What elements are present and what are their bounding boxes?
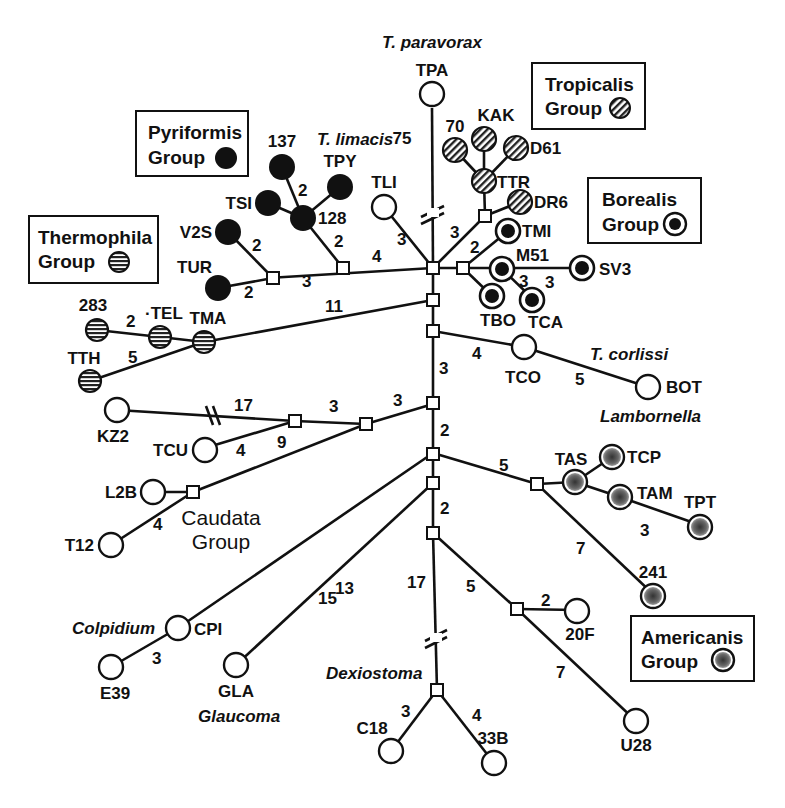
svg-text:BOT: BOT: [666, 378, 703, 397]
svg-text:3: 3: [397, 230, 406, 249]
diagonal-hatch-icon: [610, 98, 630, 118]
node-TAM: [608, 485, 632, 509]
svg-text:13: 13: [335, 579, 354, 598]
svg-text:3: 3: [152, 649, 161, 668]
svg-text:T. corlissi: T. corlissi: [590, 345, 669, 364]
node-33B: [482, 751, 506, 775]
node-TEL: [149, 326, 171, 348]
svg-text:TCO: TCO: [505, 368, 541, 387]
svg-text:Group: Group: [545, 98, 602, 119]
svg-text:4: 4: [236, 441, 246, 460]
node-241: [641, 584, 665, 608]
svg-text:·TEL: ·TEL: [145, 304, 183, 323]
svg-text:2: 2: [298, 181, 307, 200]
svg-text:2: 2: [252, 236, 261, 255]
svg-text:SV3: SV3: [599, 260, 631, 279]
svg-text:T. paravorax: T. paravorax: [382, 33, 483, 52]
ring-with-stippled-center-icon: [712, 649, 734, 671]
svg-text:17: 17: [407, 573, 426, 592]
node-TTR: [472, 169, 496, 193]
node-128: [290, 205, 316, 231]
svg-text:3: 3: [545, 273, 554, 292]
svg-text:283: 283: [79, 296, 107, 315]
svg-text:T. limacis: T. limacis: [317, 130, 393, 149]
svg-text:TCU: TCU: [153, 441, 188, 460]
svg-text:2: 2: [126, 312, 135, 331]
node-20F: [565, 599, 589, 623]
node-TUR: [205, 275, 231, 301]
svg-text:70: 70: [446, 117, 465, 136]
svg-text:Glaucoma: Glaucoma: [198, 707, 280, 726]
svg-text:3: 3: [450, 223, 459, 242]
svg-text:Lambornella: Lambornella: [600, 407, 701, 426]
legend-caudata: Caudata Group: [181, 506, 261, 553]
svg-text:Dexiostoma: Dexiostoma: [326, 664, 422, 683]
svg-text:TCA: TCA: [528, 313, 563, 332]
node-TPA: [420, 82, 444, 106]
svg-text:4: 4: [472, 706, 482, 725]
svg-text:TPA: TPA: [416, 61, 449, 80]
legend-pyriformis: Pyriformis Group: [136, 111, 248, 176]
horizontal-stripes-icon: [109, 252, 129, 272]
svg-text:3: 3: [439, 359, 448, 378]
svg-text:3: 3: [519, 272, 528, 291]
svg-text:KZ2: KZ2: [97, 427, 129, 446]
svg-text:CPI: CPI: [194, 620, 222, 639]
node-KZ2: [105, 398, 129, 422]
svg-text:Group: Group: [641, 651, 698, 672]
svg-text:Group: Group: [192, 530, 250, 553]
haplotype-network: TPA TLI 137 TPY TSI 128 V2S TUR 70 KAK D…: [0, 0, 785, 808]
svg-text:M51: M51: [516, 246, 549, 265]
node-V2S: [215, 219, 241, 245]
svg-text:V2S: V2S: [180, 223, 212, 242]
svg-text:33B: 33B: [477, 729, 508, 748]
node-C18: [379, 739, 403, 763]
svg-text:TPY: TPY: [323, 152, 357, 171]
svg-text:4: 4: [472, 344, 482, 363]
svg-text:Colpidium: Colpidium: [72, 619, 155, 638]
node-TMA: [193, 331, 215, 353]
node-137: [269, 154, 295, 180]
svg-text:137: 137: [268, 132, 296, 151]
svg-text:11: 11: [325, 297, 343, 316]
legend-tropicalis: Tropicalis Group: [532, 63, 645, 129]
svg-text:4: 4: [372, 247, 382, 266]
svg-text:2: 2: [244, 283, 253, 302]
svg-text:D61: D61: [530, 139, 561, 158]
svg-text:Group: Group: [148, 147, 205, 168]
svg-text:GLA: GLA: [218, 682, 254, 701]
svg-text:2: 2: [334, 232, 343, 251]
svg-text:U28: U28: [620, 736, 651, 755]
svg-text:9: 9: [277, 433, 286, 452]
svg-text:TTR: TTR: [497, 173, 530, 192]
node-DR6: [508, 190, 532, 214]
svg-text:TLI: TLI: [371, 173, 397, 192]
svg-text:75: 75: [393, 129, 412, 148]
svg-text:TBO: TBO: [480, 311, 516, 330]
node-TSI: [255, 190, 281, 216]
svg-text:TMI: TMI: [522, 222, 551, 241]
node-GLA: [224, 653, 248, 677]
svg-text:5: 5: [575, 370, 584, 389]
svg-text:Borealis: Borealis: [602, 189, 677, 210]
svg-text:TAS: TAS: [555, 450, 588, 469]
svg-text:TPT: TPT: [684, 493, 717, 512]
svg-text:Pyriformis: Pyriformis: [148, 122, 242, 143]
node-M51: [490, 257, 514, 281]
svg-text:TAM: TAM: [637, 484, 673, 503]
svg-text:TTH: TTH: [67, 349, 100, 368]
node-70: [443, 138, 467, 162]
node-TPY: [327, 174, 353, 200]
svg-text:5: 5: [128, 348, 137, 367]
svg-text:7: 7: [556, 663, 565, 682]
svg-text:5: 5: [466, 577, 475, 596]
svg-text:TUR: TUR: [177, 258, 212, 277]
node-TCA: [520, 288, 544, 312]
svg-text:Group: Group: [602, 214, 659, 235]
node-TMI: [496, 219, 520, 243]
node-TBO: [480, 284, 504, 308]
svg-text:T12: T12: [65, 536, 94, 555]
node-T12: [99, 533, 123, 557]
svg-text:4: 4: [153, 515, 163, 534]
svg-text:3: 3: [329, 397, 338, 416]
